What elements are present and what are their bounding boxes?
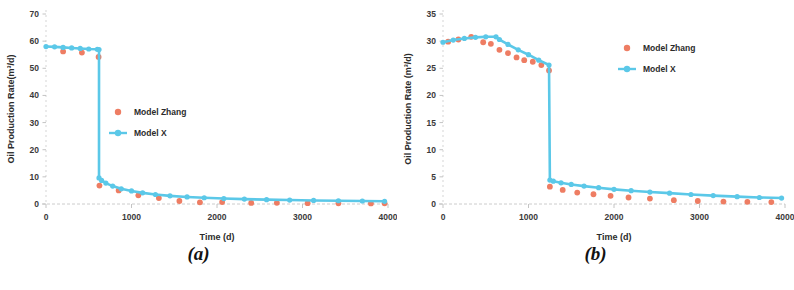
series-model-zhang bbox=[445, 34, 774, 205]
legend-label-model-zhang: Model Zhang bbox=[643, 43, 695, 53]
subfigure-caption-a: (a) bbox=[0, 243, 397, 265]
data-point bbox=[110, 183, 115, 188]
data-point bbox=[43, 44, 48, 49]
data-point bbox=[596, 185, 601, 190]
y-tick-label: 50 bbox=[30, 63, 40, 73]
data-point bbox=[497, 47, 503, 53]
x-tick-label: 0 bbox=[44, 212, 49, 222]
data-point bbox=[86, 46, 91, 51]
y-axis-title-group: Oil Production Rate(m³/d) bbox=[6, 54, 16, 163]
data-point bbox=[536, 58, 541, 63]
data-point bbox=[629, 188, 634, 193]
y-axis-title: Oil Production Rate(m³/d) bbox=[6, 54, 16, 163]
x-axis-title: Time (d) bbox=[597, 232, 632, 242]
data-point bbox=[61, 45, 66, 50]
data-point bbox=[611, 187, 616, 192]
legend-marker-model-x bbox=[115, 130, 121, 136]
data-point bbox=[311, 198, 316, 203]
data-point bbox=[52, 44, 57, 49]
y-tick-label: 30 bbox=[427, 36, 437, 46]
data-point bbox=[451, 37, 456, 42]
data-point bbox=[695, 198, 701, 204]
y-tick-label: 0 bbox=[34, 199, 39, 209]
data-point bbox=[336, 198, 341, 203]
data-point bbox=[735, 194, 740, 199]
y-tick-label: 20 bbox=[30, 145, 40, 155]
data-point bbox=[558, 180, 563, 185]
data-point bbox=[671, 197, 677, 203]
data-point bbox=[119, 186, 124, 191]
data-point bbox=[505, 50, 511, 56]
x-axis-title: Time (d) bbox=[200, 232, 235, 242]
legend: Model ZhangModel X bbox=[618, 43, 695, 74]
data-point bbox=[103, 181, 108, 186]
data-point bbox=[264, 197, 269, 202]
data-point bbox=[768, 199, 774, 205]
data-point bbox=[551, 179, 556, 184]
data-point bbox=[688, 192, 693, 197]
data-point bbox=[69, 45, 74, 50]
data-point bbox=[521, 57, 527, 63]
y-tick-label: 40 bbox=[30, 90, 40, 100]
y-tick-label: 0 bbox=[431, 199, 436, 209]
chart-b: 0510152025303501000200030004000Time (d)O… bbox=[397, 0, 794, 248]
data-point bbox=[581, 183, 586, 188]
y-axis-title: Oil Production Rate (m³/d) bbox=[403, 53, 413, 165]
x-tick-label: 2000 bbox=[208, 212, 227, 222]
y-tick-label: 30 bbox=[30, 118, 40, 128]
legend-marker-model-x bbox=[624, 66, 630, 72]
data-point bbox=[574, 190, 580, 196]
y-tick-label: 70 bbox=[30, 9, 40, 19]
data-point bbox=[757, 195, 762, 200]
data-point bbox=[530, 59, 536, 65]
x-tick-label: 1000 bbox=[122, 212, 141, 222]
y-tick-label: 15 bbox=[427, 118, 437, 128]
data-point bbox=[488, 41, 494, 47]
data-point bbox=[462, 36, 467, 41]
chart-a-plot: 01020304050607001000200030004000Time (d)… bbox=[0, 0, 397, 248]
data-point bbox=[360, 198, 365, 203]
y-tick-label: 5 bbox=[431, 172, 436, 182]
data-point bbox=[440, 40, 445, 45]
panel-a: 01020304050607001000200030004000Time (d)… bbox=[0, 0, 397, 290]
series-model-zhang bbox=[60, 49, 387, 207]
data-point bbox=[608, 193, 614, 199]
data-point bbox=[560, 187, 566, 193]
legend-label-model-x: Model X bbox=[134, 128, 167, 138]
data-point bbox=[140, 190, 145, 195]
data-point bbox=[129, 188, 134, 193]
subfigure-caption-b: (b) bbox=[397, 243, 794, 265]
series-model-x bbox=[43, 44, 387, 204]
data-point bbox=[711, 193, 716, 198]
legend: Model ZhangModel X bbox=[109, 107, 186, 138]
data-point bbox=[287, 197, 292, 202]
data-point bbox=[97, 183, 103, 189]
data-point bbox=[546, 62, 551, 67]
data-point bbox=[779, 195, 784, 200]
x-tick-label: 0 bbox=[441, 212, 446, 222]
data-point bbox=[153, 192, 158, 197]
data-point bbox=[647, 196, 653, 202]
data-point bbox=[514, 55, 520, 61]
y-tick-label: 60 bbox=[30, 36, 40, 46]
data-point bbox=[167, 193, 172, 198]
data-point bbox=[242, 197, 247, 202]
series-line bbox=[443, 37, 782, 198]
data-point bbox=[547, 184, 553, 190]
data-point bbox=[473, 35, 478, 40]
data-point bbox=[99, 178, 104, 183]
data-point bbox=[569, 182, 574, 187]
data-point bbox=[480, 39, 486, 45]
data-point bbox=[483, 34, 488, 39]
figure-container: 01020304050607001000200030004000Time (d)… bbox=[0, 0, 794, 290]
data-point bbox=[382, 199, 387, 204]
y-axis-title-group: Oil Production Rate (m³/d) bbox=[403, 53, 413, 165]
legend-label-model-x: Model X bbox=[643, 64, 676, 74]
legend-marker-model-zhang bbox=[115, 109, 121, 115]
data-point bbox=[591, 191, 597, 197]
y-tick-label: 20 bbox=[427, 90, 437, 100]
panel-b: 0510152025303501000200030004000Time (d)O… bbox=[397, 0, 794, 290]
data-point bbox=[497, 37, 502, 42]
data-point bbox=[78, 46, 83, 51]
data-point bbox=[96, 47, 101, 52]
